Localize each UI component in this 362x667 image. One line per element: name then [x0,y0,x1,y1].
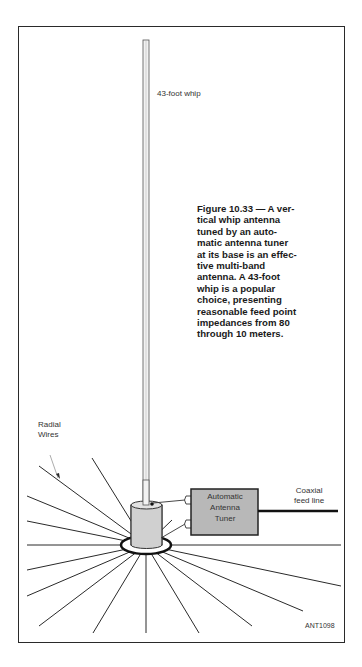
whip-label: 43-foot whip [157,89,201,99]
caption-line: tuned by an auto- [197,226,337,237]
feed-wire-top [153,500,185,503]
caption-line: reasonable feed point [197,306,337,317]
caption-line: tive multi-band [197,260,337,271]
coax-label-line-1: Coaxial [294,486,324,496]
tuner-label: Automatic Antenna Tuner [191,491,259,524]
radial-wires [27,458,341,633]
radial-label-line-2: Wires [38,430,61,440]
coax-label-line-2: feed line [294,496,324,506]
coax-label: Coaxial feed line [294,486,324,506]
caption-line: whip is a popular [197,283,337,294]
figure-id-tag: ANT1098 [305,621,335,631]
caption-line: Figure 10.33 — A ver- [197,203,337,214]
tuner-label-line-3: Tuner [191,513,259,524]
tuner-label-line-2: Antenna [191,502,259,513]
caption-line: impedances from 80 [197,317,337,328]
feed-wire-bottom [161,524,185,538]
base-cylinder [131,480,162,549]
caption-line: choice, presenting [197,294,337,305]
caption-line: matic antenna tuner [197,237,337,248]
caption-line: through 10 meters. [197,328,337,339]
figure-caption: Figure 10.33 — A ver- tical whip antenna… [197,203,337,340]
caption-line: tical whip antenna [197,214,337,225]
radial-wires-label: Radial Wires [38,420,61,440]
radial-label-line-1: Radial [38,420,61,430]
tuner-label-line-1: Automatic [191,491,259,502]
caption-line: at its base is an effec- [197,249,337,260]
antenna-diagram: 43-foot whip Radial Wires Coaxial feed l… [0,0,362,667]
caption-line: antenna. A 43-foot [197,271,337,282]
